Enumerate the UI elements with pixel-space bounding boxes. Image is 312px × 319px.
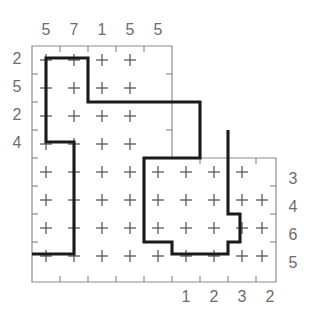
- tick-group-top: [60, 46, 144, 52]
- top-clue-2: 1: [98, 21, 107, 38]
- plus-mark: [40, 250, 52, 262]
- board-frame: [32, 46, 276, 282]
- tick-group-right: [270, 186, 276, 242]
- plus-mark: [124, 138, 136, 150]
- plus-mark: [152, 194, 164, 206]
- plus-mark: [208, 250, 220, 262]
- plus-mark: [124, 222, 136, 234]
- left-clue-1: 5: [13, 78, 22, 95]
- right-clue-0: 3: [289, 170, 298, 187]
- plus-mark: [124, 194, 136, 206]
- plus-mark: [180, 222, 192, 234]
- plus-mark: [152, 250, 164, 262]
- plus-mark: [68, 54, 80, 66]
- plus-mark: [124, 82, 136, 94]
- bottom-clue-3: 2: [266, 288, 275, 305]
- plus-mark: [96, 250, 108, 262]
- right-clue-group: 3 4 6 5: [289, 170, 298, 271]
- plus-mark: [40, 222, 52, 234]
- plus-mark: [124, 54, 136, 66]
- plus-mark: [96, 166, 108, 178]
- right-clue-2: 6: [289, 226, 298, 243]
- top-clue-1: 7: [70, 21, 79, 38]
- plus-mark: [68, 110, 80, 122]
- left-clue-0: 2: [13, 50, 22, 67]
- puzzle-canvas: 5 7 1 5 5 2 5 2 4 3 4 6 5 1 2 3 2: [0, 0, 312, 319]
- plus-mark: [124, 166, 136, 178]
- plus-mark: [96, 194, 108, 206]
- plus-mark: [236, 166, 248, 178]
- plus-mark: [180, 250, 192, 262]
- top-clue-group: 5 7 1 5 5: [42, 21, 163, 38]
- plus-mark: [124, 250, 136, 262]
- plus-mark: [152, 166, 164, 178]
- plus-mark: [180, 166, 192, 178]
- plus-mark: [236, 250, 248, 262]
- right-clue-1: 4: [289, 198, 298, 215]
- bottom-clue-1: 2: [210, 288, 219, 305]
- left-clue-3: 4: [13, 134, 22, 151]
- plus-mark: [152, 222, 164, 234]
- plus-mark: [96, 110, 108, 122]
- plus-mark: [256, 250, 268, 262]
- left-clue-2: 2: [13, 106, 22, 123]
- plus-mark: [124, 110, 136, 122]
- plus-mark: [208, 194, 220, 206]
- plus-mark: [40, 194, 52, 206]
- left-clue-group: 2 5 2 4: [13, 50, 22, 151]
- puzzle-svg: 5 7 1 5 5 2 5 2 4 3 4 6 5 1 2 3 2: [0, 0, 312, 319]
- plus-mark: [96, 138, 108, 150]
- plus-mark: [68, 82, 80, 94]
- plus-mark: [208, 222, 220, 234]
- plus-mark: [96, 54, 108, 66]
- tick-group-left: [32, 74, 38, 242]
- plus-mark: [236, 222, 248, 234]
- top-clue-3: 5: [126, 21, 135, 38]
- plus-mark: [256, 222, 268, 234]
- top-clue-0: 5: [42, 21, 51, 38]
- plus-mark: [236, 194, 248, 206]
- tick-group-bottom: [60, 276, 256, 282]
- right-clue-3: 5: [289, 254, 298, 271]
- plus-mark: [256, 194, 268, 206]
- bottom-clue-0: 1: [182, 288, 191, 305]
- plus-mark: [180, 194, 192, 206]
- plus-mark: [96, 82, 108, 94]
- plus-mark: [96, 222, 108, 234]
- bottom-clue-2: 3: [238, 288, 247, 305]
- top-clue-4: 5: [154, 21, 163, 38]
- plus-mark: [208, 166, 220, 178]
- plus-mark: [40, 166, 52, 178]
- bottom-clue-group: 1 2 3 2: [182, 288, 275, 305]
